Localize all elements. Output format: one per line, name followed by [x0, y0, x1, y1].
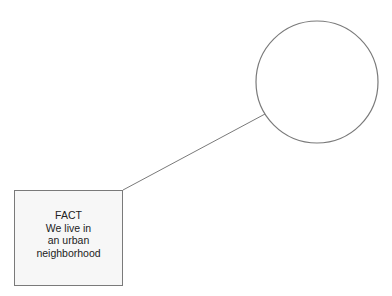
fact-line-3: neighborhood [36, 247, 100, 260]
fact-heading: FACT [55, 209, 82, 222]
fact-line-1: We live in [46, 222, 91, 235]
connector-line [123, 114, 265, 190]
fact-line-2: an urban [48, 234, 89, 247]
empty-circle-node [256, 21, 378, 143]
fact-box: FACT We live in an urban neighborhood [14, 190, 123, 286]
